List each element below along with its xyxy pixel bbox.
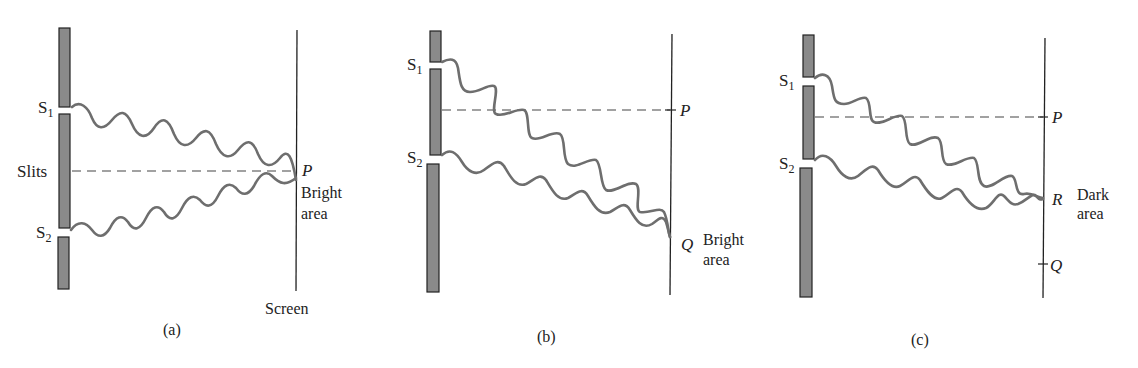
label-s1: S1 <box>38 98 53 120</box>
label-s2: S2 <box>779 154 794 176</box>
label-dark-area-line1: Dark <box>1077 186 1109 203</box>
caption-b: (b) <box>537 328 556 346</box>
label-point-p: P <box>301 161 312 180</box>
barrier-middle-segment <box>430 69 441 155</box>
wave-from-s1 <box>72 104 296 180</box>
label-screen: Screen <box>265 300 309 317</box>
barrier-bottom-segment <box>427 164 439 292</box>
panel-a: S1 Slits S2 P Bright area Screen (a) <box>17 28 342 339</box>
label-point-p: P <box>1051 108 1062 127</box>
barrier-top-segment <box>59 28 70 107</box>
label-dark-area-line2: area <box>1077 205 1104 222</box>
label-slits: Slits <box>17 162 47 181</box>
label-point-q: Q <box>1050 256 1062 275</box>
wave-from-s1 <box>815 75 1043 198</box>
label-point-r: R <box>1051 190 1063 209</box>
screen-line <box>296 30 297 291</box>
panel-b: S1 S2 P Q Bright area (b) <box>407 31 744 346</box>
caption-a: (a) <box>163 321 181 339</box>
wave-from-s1 <box>442 60 670 237</box>
screen-line <box>1043 38 1045 298</box>
wave-from-s2 <box>815 156 1043 209</box>
label-bright-area-line1: Bright <box>301 184 342 202</box>
barrier-top-segment <box>803 35 814 77</box>
label-bright-area-line1: Bright <box>703 231 744 249</box>
barrier-bottom-segment <box>800 168 812 297</box>
barrier-bottom-segment <box>58 237 69 289</box>
wave-from-s2 <box>442 151 670 237</box>
label-s1: S1 <box>779 71 794 93</box>
label-s1: S1 <box>407 55 422 77</box>
barrier-middle-segment <box>59 114 70 228</box>
barrier-top-segment <box>430 31 441 62</box>
label-point-p: P <box>679 101 690 120</box>
barrier-middle-segment <box>803 86 814 159</box>
label-bright-area-line2: area <box>301 205 328 222</box>
caption-c: (c) <box>911 331 929 349</box>
label-s2: S2 <box>407 148 422 170</box>
wave-from-s2 <box>71 173 296 236</box>
label-s2: S2 <box>36 223 51 245</box>
label-bright-area-line2: area <box>703 251 730 268</box>
screen-line <box>670 34 672 295</box>
panel-c: S1 S2 P R Dark area Q (c) <box>779 35 1109 349</box>
double-slit-interference-figure: S1 Slits S2 P Bright area Screen (a) S1 … <box>0 0 1138 368</box>
label-point-q: Q <box>681 235 693 254</box>
